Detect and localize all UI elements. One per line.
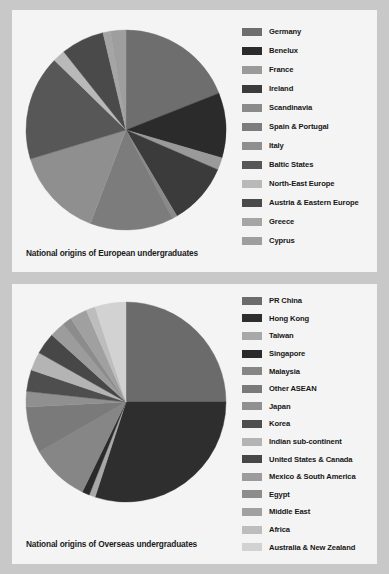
legend-item: Australia & New Zealand — [242, 538, 356, 556]
legend-label: Japan — [269, 402, 290, 411]
legend-label: Spain & Portugal — [269, 122, 329, 131]
pie-chart-overseas — [24, 300, 229, 505]
chart-panel-overseas: PR ChinaHong KongTaiwanSingaporeMalaysia… — [12, 284, 377, 564]
legend-item: Mexico & South America — [242, 468, 356, 486]
legend-label: Africa — [269, 525, 290, 534]
legend-swatch-icon — [242, 402, 262, 410]
legend-item: North-East Europe — [242, 174, 359, 193]
legend-item: Baltic States — [242, 155, 359, 174]
legend-swatch-icon — [242, 490, 262, 498]
legend-swatch-icon — [242, 297, 262, 305]
legend-label: Ireland — [269, 84, 293, 93]
legend-swatch-icon — [242, 543, 262, 551]
legend-item: Japan — [242, 398, 356, 416]
legend-swatch-icon — [242, 199, 262, 207]
legend-label: Egypt — [269, 490, 290, 499]
legend-swatch-icon — [242, 47, 262, 55]
pie-chart-european — [24, 28, 229, 233]
legend-item: Scandinavia — [242, 98, 359, 117]
legend-label: Australia & New Zealand — [269, 543, 355, 552]
legend-item: Germany — [242, 22, 359, 41]
pie-slice — [126, 302, 226, 402]
legend-swatch-icon — [242, 123, 262, 131]
legend-swatch-icon — [242, 526, 262, 534]
legend-swatch-icon — [242, 332, 262, 340]
legend-item: France — [242, 60, 359, 79]
legend-label: Indian sub-continent — [269, 437, 342, 446]
legend-european: GermanyBeneluxFranceIrelandScandinaviaSp… — [242, 22, 359, 250]
legend-swatch-icon — [242, 314, 262, 322]
chart-page: GermanyBeneluxFranceIrelandScandinaviaSp… — [0, 0, 389, 574]
legend-label: Korea — [269, 419, 290, 428]
legend-swatch-icon — [242, 508, 262, 516]
legend-swatch-icon — [242, 180, 262, 188]
legend-item: Benelux — [242, 41, 359, 60]
legend-label: Cyprus — [269, 236, 295, 245]
legend-swatch-icon — [242, 85, 262, 93]
pie-svg-european — [24, 28, 229, 233]
legend-item: Africa — [242, 521, 356, 539]
legend-item: Malaysia — [242, 362, 356, 380]
legend-label: Benelux — [269, 46, 298, 55]
legend-swatch-icon — [242, 473, 262, 481]
legend-label: Middle East — [269, 507, 310, 516]
chart-panel-european: GermanyBeneluxFranceIrelandScandinaviaSp… — [12, 10, 377, 272]
legend-overseas: PR ChinaHong KongTaiwanSingaporeMalaysia… — [242, 292, 356, 556]
legend-item: Middle East — [242, 503, 356, 521]
legend-label: Other ASEAN — [269, 384, 317, 393]
legend-swatch-icon — [242, 28, 262, 36]
legend-swatch-icon — [242, 350, 262, 358]
legend-item: Other ASEAN — [242, 380, 356, 398]
legend-swatch-icon — [242, 455, 262, 463]
legend-item: Hong Kong — [242, 310, 356, 328]
legend-label: Malaysia — [269, 367, 300, 376]
legend-item: PR China — [242, 292, 356, 310]
legend-label: France — [269, 65, 293, 74]
legend-swatch-icon — [242, 385, 262, 393]
legend-swatch-icon — [242, 142, 262, 150]
legend-label: United States & Canada — [269, 455, 352, 464]
legend-label: Singapore — [269, 349, 305, 358]
pie-svg-overseas — [24, 300, 229, 505]
legend-swatch-icon — [242, 161, 262, 169]
legend-swatch-icon — [242, 237, 262, 245]
legend-item: Indian sub-continent — [242, 433, 356, 451]
legend-label: Scandinavia — [269, 103, 312, 112]
legend-label: Taiwan — [269, 331, 294, 340]
legend-label: Baltic States — [269, 160, 313, 169]
legend-label: Austria & Eastern Europe — [269, 198, 359, 207]
legend-label: North-East Europe — [269, 179, 334, 188]
legend-swatch-icon — [242, 438, 262, 446]
legend-item: Spain & Portugal — [242, 117, 359, 136]
legend-item: Austria & Eastern Europe — [242, 193, 359, 212]
legend-label: Hong Kong — [269, 314, 309, 323]
legend-label: Germany — [269, 27, 301, 36]
legend-item: Egypt — [242, 486, 356, 504]
legend-swatch-icon — [242, 218, 262, 226]
legend-item: Italy — [242, 136, 359, 155]
legend-item: Greece — [242, 212, 359, 231]
legend-swatch-icon — [242, 367, 262, 375]
legend-label: Mexico & South America — [269, 472, 356, 481]
legend-item: Ireland — [242, 79, 359, 98]
legend-label: Italy — [269, 141, 284, 150]
legend-item: Korea — [242, 415, 356, 433]
legend-label: PR China — [269, 296, 302, 305]
legend-item: United States & Canada — [242, 450, 356, 468]
legend-item: Cyprus — [242, 231, 359, 250]
legend-swatch-icon — [242, 66, 262, 74]
legend-item: Singapore — [242, 345, 356, 363]
chart-title-european: National origins of European undergradua… — [26, 248, 198, 258]
legend-label: Greece — [269, 217, 294, 226]
chart-title-overseas: National origins of Overseas undergradua… — [26, 539, 197, 549]
legend-item: Taiwan — [242, 327, 356, 345]
legend-swatch-icon — [242, 420, 262, 428]
legend-swatch-icon — [242, 104, 262, 112]
